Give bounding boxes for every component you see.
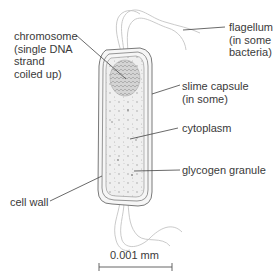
flagella-top <box>116 10 200 52</box>
flagella-bottom <box>115 202 182 251</box>
scale-bar <box>99 263 172 271</box>
label-cytoplasm: cytoplasm <box>182 122 232 135</box>
label-flagellum: flagellum (in some bacteria) <box>229 21 273 59</box>
scale-bar-label: 0.001 mm <box>110 249 159 262</box>
leader-slime-capsule <box>152 85 180 94</box>
label-cell-wall: cell wall <box>10 196 49 209</box>
label-chromosome: chromosome (single DNA strand coiled up) <box>14 30 78 80</box>
leader-cell-wall <box>50 176 102 201</box>
label-slime-capsule: slime capsule (in some) <box>182 80 249 105</box>
label-glycogen-granule: glycogen granule <box>182 164 266 177</box>
